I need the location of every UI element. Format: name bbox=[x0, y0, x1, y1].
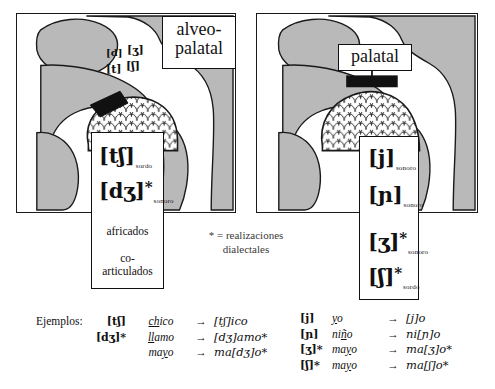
phoneme-box-alveopalatal: [tʃ]sordo [dʒ]*sonoro africados co- arti… bbox=[91, 132, 164, 289]
place-label-line-1: palatal bbox=[339, 47, 411, 66]
example-output: ma[ʒ]o* bbox=[406, 342, 452, 357]
figure-canvas: alveo- palatal palatal [d] [ʒ] [t] [ʃ] [… bbox=[0, 0, 495, 389]
example-symbol: [ʃ]* bbox=[300, 359, 326, 374]
phoneme-symbol: [tʃ] bbox=[99, 143, 135, 168]
manner-label-line-3: articulados bbox=[92, 265, 163, 277]
example-word-post: ico bbox=[159, 315, 173, 327]
phoneme-symbol: [ɲ] bbox=[368, 182, 403, 207]
voicing-label: sonoro bbox=[408, 248, 428, 256]
phoneme-symbol: [ʃ] bbox=[368, 264, 394, 289]
example-output: [j]o bbox=[406, 311, 425, 326]
dialect-note-line-1: * = realizaciones bbox=[186, 228, 306, 242]
voicing-label: sonoro bbox=[154, 197, 174, 205]
place-label-palatal: palatal bbox=[338, 44, 412, 71]
arrow-icon: → bbox=[188, 314, 214, 329]
example-word: mayo bbox=[326, 342, 380, 357]
phoneme-row: [tʃ]sordo bbox=[99, 143, 151, 168]
phoneme-row: [ɲ]sonoro bbox=[368, 182, 423, 207]
phoneme-symbol: [dʒ] bbox=[99, 178, 145, 203]
example-row: [j] yo → [j]o bbox=[300, 311, 452, 327]
example-word: yo bbox=[326, 311, 380, 326]
dialect-star: * bbox=[394, 264, 402, 282]
example-word-pre: ni bbox=[332, 328, 341, 340]
example-word: mayo bbox=[126, 345, 188, 360]
dialect-note-line-2: dialectales bbox=[186, 242, 306, 256]
example-word: llamo bbox=[126, 330, 188, 345]
example-row: mayo → ma[dʒ]o* bbox=[36, 345, 267, 360]
example-word: chico bbox=[126, 314, 188, 329]
phoneme-row: [ʃ]*sordo bbox=[368, 264, 419, 289]
examples-list-palatal: [j] yo → [j]o [ɲ] niño → ni[ɲ]o [ʒ]* may… bbox=[300, 311, 452, 373]
example-word-post: o bbox=[351, 343, 357, 355]
example-word: niño bbox=[326, 327, 380, 342]
arrow-icon: → bbox=[188, 330, 214, 345]
example-output: [dʒ]amo* bbox=[214, 330, 267, 345]
example-row: [dʒ]* llamo → [dʒ]amo* bbox=[36, 330, 267, 346]
phoneme-row: [dʒ]*sonoro bbox=[99, 178, 173, 203]
articulation-label-t: [t] bbox=[106, 63, 122, 76]
place-label-line-2: palatal bbox=[163, 39, 235, 58]
manner-label-line-2: co- bbox=[92, 252, 163, 264]
example-output: ma[dʒ]o* bbox=[214, 345, 267, 360]
articulation-label-ezh: [ʒ] bbox=[127, 44, 144, 57]
example-word: mayo bbox=[326, 358, 380, 373]
articulation-label-esh: [ʃ] bbox=[126, 60, 140, 73]
example-word-pre: ma bbox=[332, 359, 346, 371]
example-output: ni[ɲ]o bbox=[406, 327, 440, 342]
example-symbol: [j] bbox=[300, 312, 326, 327]
example-word-post: o bbox=[337, 312, 343, 324]
manner-label-line-1: africados bbox=[92, 225, 163, 237]
voicing-label: sonoro bbox=[396, 164, 416, 172]
example-output: [tʃ]ico bbox=[214, 314, 248, 329]
place-label-alveopalatal: alveo- palatal bbox=[162, 16, 236, 69]
dialect-star: * bbox=[399, 229, 407, 247]
arrow-icon: → bbox=[380, 342, 406, 357]
example-symbol: [dʒ]* bbox=[92, 331, 126, 346]
example-word-pre: ma bbox=[332, 343, 346, 355]
example-word-grapheme: ch bbox=[149, 315, 160, 327]
example-row: [ɲ] niño → ni[ɲ]o bbox=[300, 327, 452, 343]
example-row: Ejemplos: [tʃ] chico → [tʃ]ico bbox=[36, 314, 267, 330]
examples-list-alveopalatal: Ejemplos: [tʃ] chico → [tʃ]ico [dʒ]* lla… bbox=[36, 314, 267, 360]
arrow-icon: → bbox=[380, 327, 406, 342]
example-word-post: o bbox=[168, 346, 174, 358]
example-row: [ʃ]* mayo → ma[ʃ]o* bbox=[300, 358, 452, 374]
place-label-line-1: alveo- bbox=[163, 20, 235, 39]
phoneme-row: [ʒ]*sonoro bbox=[368, 229, 427, 254]
example-word-post: amo bbox=[154, 331, 174, 343]
voicing-label: sordo bbox=[136, 162, 153, 170]
phoneme-symbol: [ʒ] bbox=[368, 229, 399, 254]
examples-heading: Ejemplos: bbox=[36, 314, 92, 329]
example-word-post: o bbox=[347, 328, 353, 340]
example-row: [ʒ]* mayo → ma[ʒ]o* bbox=[300, 342, 452, 358]
articulation-label-d: [d] bbox=[106, 47, 122, 58]
example-word-pre: ma bbox=[149, 346, 163, 358]
arrow-icon: → bbox=[380, 311, 406, 326]
example-symbol: [ɲ] bbox=[300, 328, 326, 343]
arrow-icon: → bbox=[380, 358, 406, 373]
example-symbol: [ʒ]* bbox=[300, 343, 326, 358]
dialect-star: * bbox=[145, 178, 153, 196]
voicing-label: sonoro bbox=[404, 201, 424, 209]
example-word-post: o bbox=[351, 359, 357, 371]
example-output: ma[ʃ]o* bbox=[406, 358, 449, 373]
phoneme-box-palatal: [j]sonoro [ɲ]sonoro [ʒ]*sonoro [ʃ]*sordo bbox=[359, 136, 419, 300]
arrow-icon: → bbox=[188, 345, 214, 360]
phoneme-row: [j]sonoro bbox=[368, 145, 415, 170]
dialect-realizations-note: * = realizaciones dialectales bbox=[186, 228, 306, 256]
phoneme-symbol: [j] bbox=[368, 145, 395, 170]
example-symbol: [tʃ] bbox=[92, 315, 126, 330]
voicing-label: sordo bbox=[403, 283, 420, 291]
